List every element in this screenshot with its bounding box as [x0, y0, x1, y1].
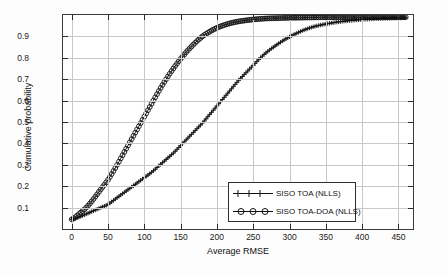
- x-tick: [144, 224, 145, 229]
- gridline-horizontal: [63, 58, 413, 59]
- y-tick-label: 0.6: [0, 96, 29, 106]
- y-tick: [63, 186, 68, 187]
- x-tick: [217, 224, 218, 229]
- x-tick: [144, 15, 145, 20]
- y-tick: [408, 101, 413, 102]
- y-tick-label: 0.2: [0, 181, 29, 191]
- legend: SISO TOA (NLLS) SISO TOA-DOA (NLLS): [228, 182, 356, 222]
- legend-item-siso-toa-doa: SISO TOA-DOA (NLLS): [229, 203, 355, 221]
- y-tick: [408, 186, 413, 187]
- y-tick: [63, 143, 68, 144]
- y-tick: [63, 79, 68, 80]
- x-tick: [290, 224, 291, 229]
- y-tick: [408, 79, 413, 80]
- y-tick-label: 0.8: [0, 53, 29, 63]
- x-tick-label: 250: [233, 232, 273, 242]
- gridline-vertical: [217, 15, 218, 229]
- gridline-vertical: [398, 15, 399, 229]
- x-tick: [290, 15, 291, 20]
- gridline-horizontal: [63, 122, 413, 123]
- gridline-vertical: [362, 15, 363, 229]
- y-tick: [63, 208, 68, 209]
- x-tick: [72, 15, 73, 20]
- y-tick: [63, 36, 68, 37]
- y-tick: [63, 122, 68, 123]
- x-tick-label: 100: [124, 232, 164, 242]
- y-tick: [408, 143, 413, 144]
- gridline-vertical: [72, 15, 73, 229]
- x-axis-label: Average RMSE: [62, 246, 414, 256]
- circle-marker-icon: [233, 203, 273, 221]
- legend-sample-circle: [233, 203, 273, 221]
- gridline-vertical: [181, 15, 182, 229]
- x-tick-label: 50: [88, 232, 128, 242]
- x-tick: [72, 224, 73, 229]
- cdf-chart: Cumulative probability Average RMSE 0.10…: [0, 0, 447, 274]
- y-tick-label: 0.9: [0, 31, 29, 41]
- x-tick: [326, 15, 327, 20]
- gridline-vertical: [144, 15, 145, 229]
- x-tick-label: 350: [306, 232, 346, 242]
- gridline-vertical: [108, 15, 109, 229]
- x-tick: [326, 224, 327, 229]
- y-tick: [408, 165, 413, 166]
- x-tick: [108, 224, 109, 229]
- x-tick-label: 450: [378, 232, 418, 242]
- y-tick: [63, 58, 68, 59]
- x-tick-label: 300: [270, 232, 310, 242]
- x-tick-label: 150: [161, 232, 201, 242]
- x-tick: [217, 15, 218, 20]
- gridline-horizontal: [63, 143, 413, 144]
- x-tick-label: 0: [52, 232, 92, 242]
- legend-item-siso-toa: SISO TOA (NLLS): [229, 185, 355, 203]
- y-tick-label: 0.4: [0, 138, 29, 148]
- y-tick-label: 0.5: [0, 117, 29, 127]
- y-tick: [408, 122, 413, 123]
- plus-marker-icon: [233, 185, 273, 203]
- gridline-horizontal: [63, 101, 413, 102]
- x-tick: [108, 15, 109, 20]
- y-tick-label: 0.7: [0, 74, 29, 84]
- legend-label: SISO TOA-DOA (NLLS): [276, 207, 361, 216]
- gridline-horizontal: [63, 36, 413, 37]
- y-tick: [63, 101, 68, 102]
- x-tick: [362, 15, 363, 20]
- x-tick: [398, 15, 399, 20]
- x-tick: [398, 224, 399, 229]
- y-tick: [63, 165, 68, 166]
- gridline-horizontal: [63, 165, 413, 166]
- y-tick: [408, 208, 413, 209]
- y-tick-label: 0.1: [0, 203, 29, 213]
- legend-sample-plus: [233, 185, 273, 203]
- x-tick: [253, 15, 254, 20]
- x-tick: [253, 224, 254, 229]
- y-tick: [408, 36, 413, 37]
- y-tick: [408, 58, 413, 59]
- x-tick: [181, 15, 182, 20]
- legend-label: SISO TOA (NLLS): [276, 189, 341, 198]
- x-tick: [362, 224, 363, 229]
- x-tick-label: 200: [197, 232, 237, 242]
- gridline-horizontal: [63, 79, 413, 80]
- y-tick-label: 0.3: [0, 160, 29, 170]
- x-tick: [181, 224, 182, 229]
- x-tick-label: 400: [342, 232, 382, 242]
